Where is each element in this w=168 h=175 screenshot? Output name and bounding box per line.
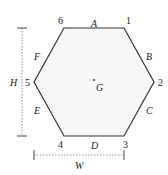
vertex-label-5: 5 — [25, 77, 30, 88]
vertex-label-6: 6 — [58, 15, 63, 26]
hexagon-diagram: H W 1 2 3 4 5 6 A B C D E F G — [0, 0, 168, 175]
vertex-label-3: 3 — [123, 139, 128, 150]
side-label-e: E — [33, 105, 40, 116]
hexagon-shape — [34, 28, 154, 136]
height-label: H — [9, 77, 18, 88]
side-label-a: A — [90, 18, 98, 29]
vertex-label-4: 4 — [58, 139, 63, 150]
width-label: W — [75, 160, 85, 171]
vertex-label-1: 1 — [126, 15, 131, 26]
side-label-b: B — [146, 51, 152, 62]
vertex-label-2: 2 — [158, 77, 163, 88]
side-label-d: D — [90, 140, 99, 151]
width-dimension: W — [34, 150, 124, 171]
side-label-c: C — [146, 105, 153, 116]
centroid-dot — [93, 79, 95, 81]
centroid-label: G — [96, 82, 103, 93]
side-label-f: F — [33, 51, 41, 62]
